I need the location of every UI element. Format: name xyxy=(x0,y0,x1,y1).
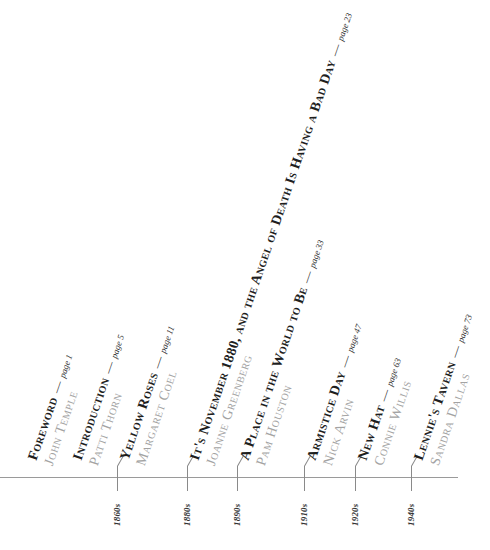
era-label: 1880s xyxy=(182,503,192,526)
toc-entry-lennies-tavern[interactable]: Lennie's Tavern—page 73 Sandra Dallas xyxy=(411,312,490,468)
tick-1880s xyxy=(187,466,188,491)
table-of-contents-timeline: 1860s 1880s 1890s 1910s 1920s 1940s Fore… xyxy=(0,0,490,550)
dash-separator: — xyxy=(376,387,393,403)
era-label: 1910s xyxy=(299,503,309,526)
tick-1920s xyxy=(355,466,356,491)
dash-separator: — xyxy=(149,354,166,370)
era-label: 1940s xyxy=(406,503,416,526)
dash-separator: — xyxy=(299,269,316,285)
tick-1910s xyxy=(304,466,305,491)
tick-1860s xyxy=(117,466,118,491)
dash-separator: — xyxy=(447,343,464,359)
dash-separator: — xyxy=(337,353,354,369)
era-label: 1890s xyxy=(232,503,242,526)
dash-separator: — xyxy=(101,359,118,375)
era-label: 1920s xyxy=(350,503,360,526)
tick-1940s xyxy=(411,466,412,491)
era-label: 1860s xyxy=(112,503,122,526)
dash-separator: — xyxy=(327,42,344,58)
tick-1890s xyxy=(237,466,238,491)
timeline-axis xyxy=(0,477,458,478)
dash-separator: — xyxy=(49,379,66,395)
